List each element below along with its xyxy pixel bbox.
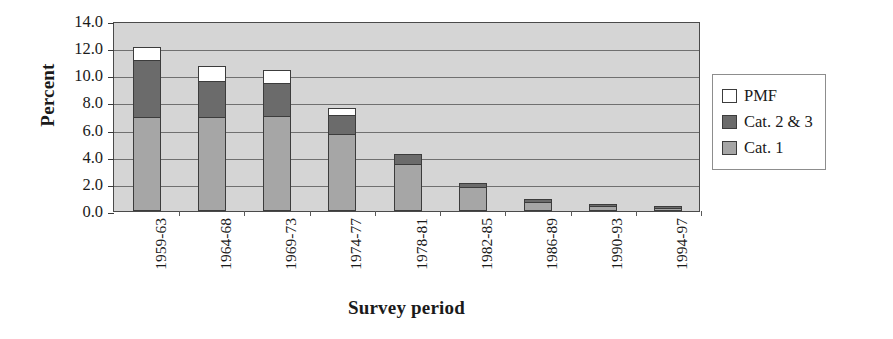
bar-segment-cat1[interactable] xyxy=(263,116,291,211)
bar-segment-cat1[interactable] xyxy=(589,206,617,211)
chart-legend: PMFCat. 2 & 3Cat. 1 xyxy=(712,74,826,170)
bar-slot xyxy=(654,23,682,211)
bar-segment-cat1[interactable] xyxy=(459,187,487,211)
x-tick-label: 1964-68 xyxy=(218,218,234,270)
x-tick-label: 1994-97 xyxy=(674,218,690,270)
stacked-bar[interactable] xyxy=(524,199,552,211)
stacked-bar[interactable] xyxy=(459,183,487,211)
bar-segment-pmf[interactable] xyxy=(328,108,356,115)
y-tick-label: 2.0 xyxy=(82,177,103,194)
stacked-bar[interactable] xyxy=(394,154,422,211)
bar-slot xyxy=(133,23,161,211)
legend-swatch-icon xyxy=(722,141,737,155)
x-tick-label: 1982-85 xyxy=(479,218,495,270)
legend-label: PMF xyxy=(744,88,777,105)
stacked-bar[interactable] xyxy=(328,108,356,211)
bar-segment-cat23[interactable] xyxy=(198,81,226,118)
bar-slot xyxy=(394,23,422,211)
bar-segment-cat1[interactable] xyxy=(654,208,682,211)
y-tick-label: 8.0 xyxy=(82,95,103,112)
x-tick-label: 1978-81 xyxy=(414,218,430,270)
x-tick-label: 1990-93 xyxy=(609,218,625,270)
x-axis-title: Survey period xyxy=(113,297,700,319)
bar-slot xyxy=(524,23,552,211)
x-tick-label: 1974-77 xyxy=(348,218,364,270)
bar-segment-pmf[interactable] xyxy=(133,47,161,61)
stacked-bar[interactable] xyxy=(133,47,161,211)
bar-segment-cat1[interactable] xyxy=(524,202,552,212)
bar-segment-pmf[interactable] xyxy=(198,66,226,81)
legend-swatch-icon xyxy=(722,115,737,129)
bar-segment-pmf[interactable] xyxy=(263,70,291,84)
bar-segment-cat23[interactable] xyxy=(328,115,356,134)
bar-segment-cat1[interactable] xyxy=(394,164,422,212)
bar-slot xyxy=(263,23,291,211)
stacked-bar[interactable] xyxy=(263,70,291,211)
bar-segment-cat1[interactable] xyxy=(198,117,226,211)
y-tick-label: 4.0 xyxy=(82,149,103,166)
legend-label: Cat. 1 xyxy=(744,140,783,157)
plot-area xyxy=(113,22,700,212)
legend-item[interactable]: Cat. 2 & 3 xyxy=(722,109,813,135)
bar-slot xyxy=(589,23,617,211)
legend-item[interactable]: PMF xyxy=(722,83,813,109)
x-tick-label: 1986-89 xyxy=(544,218,560,270)
bar-segment-cat23[interactable] xyxy=(133,60,161,117)
bar-series-group xyxy=(114,23,699,211)
bar-slot xyxy=(328,23,356,211)
x-tick-label: 1959-63 xyxy=(153,218,169,270)
x-axis-tick-labels: 1959-631964-681969-731974-771978-811982-… xyxy=(113,212,700,292)
bar-segment-cat23[interactable] xyxy=(263,83,291,116)
chart-figure: Percent 0.02.04.06.08.010.012.014.0 1959… xyxy=(0,0,893,339)
y-tick-label: 14.0 xyxy=(74,14,103,31)
bar-segment-cat1[interactable] xyxy=(328,134,356,211)
bar-segment-cat1[interactable] xyxy=(133,117,161,211)
y-tick-label: 10.0 xyxy=(74,68,103,85)
legend-item[interactable]: Cat. 1 xyxy=(722,135,813,161)
x-tick-label: 1969-73 xyxy=(283,218,299,270)
stacked-bar[interactable] xyxy=(589,204,617,211)
stacked-bar[interactable] xyxy=(654,206,682,211)
stacked-bar[interactable] xyxy=(198,66,226,211)
bar-slot xyxy=(459,23,487,211)
bar-segment-cat23[interactable] xyxy=(394,154,422,164)
bar-slot xyxy=(198,23,226,211)
y-axis-tick-labels: 0.02.04.06.08.010.012.014.0 xyxy=(55,22,107,212)
x-tick-mark xyxy=(701,211,702,216)
legend-swatch-icon xyxy=(722,89,737,103)
y-tick-label: 6.0 xyxy=(82,122,103,139)
y-tick-label: 12.0 xyxy=(74,41,103,58)
y-tick-label: 0.0 xyxy=(82,204,103,221)
legend-label: Cat. 2 & 3 xyxy=(744,114,813,131)
